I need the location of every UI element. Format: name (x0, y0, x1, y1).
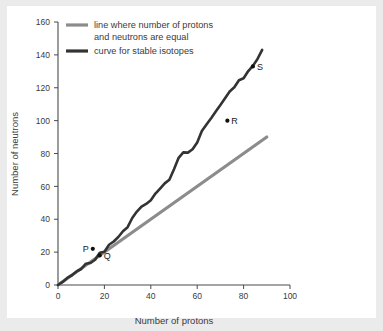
legend-label-0-line2: and neutrons are equal (94, 32, 189, 42)
y-tick-label: 140 (36, 50, 50, 60)
y-tick-label: 100 (36, 116, 50, 126)
x-tick-label: 40 (146, 291, 156, 301)
data-point-label-r: R (231, 116, 238, 126)
data-series-group (58, 50, 267, 285)
isotope-chart-plot: 020406080100120140160 020406080100 Numbe… (0, 0, 383, 331)
legend-label-1: curve for stable isotopes (94, 46, 194, 56)
x-tick-label: 20 (100, 291, 110, 301)
data-point-r (225, 119, 229, 123)
x-axis-tick-labels: 020406080100 (56, 291, 298, 301)
y-tick-label: 160 (36, 17, 50, 27)
labelled-points-group: PQRS (83, 62, 263, 261)
x-tick-label: 0 (56, 291, 61, 301)
x-axis-ticks (58, 285, 290, 289)
data-point-s (251, 64, 255, 68)
data-point-label-s: S (257, 62, 263, 72)
y-tick-label: 80 (41, 149, 51, 159)
data-point-label-p: P (83, 244, 89, 254)
y-tick-label: 20 (41, 247, 51, 257)
y-tick-label: 0 (45, 280, 50, 290)
legend-label-0: line where number of protons (94, 20, 213, 30)
y-axis-ticks (54, 22, 58, 285)
y-tick-label: 40 (41, 214, 51, 224)
y-tick-label: 120 (36, 83, 50, 93)
x-axis-title: Number of protons (135, 315, 214, 326)
y-axis-title: Number of neutrons (9, 112, 20, 196)
chart-legend: line where number of protonsand neutrons… (66, 20, 213, 56)
x-tick-label: 60 (192, 291, 202, 301)
data-point-q (98, 253, 102, 257)
y-tick-label: 60 (41, 182, 51, 192)
y-axis-tick-labels: 020406080100120140160 (36, 17, 50, 290)
data-point-label-q: Q (104, 251, 111, 261)
data-point-p (91, 247, 95, 251)
x-tick-label: 100 (283, 291, 297, 301)
x-tick-label: 80 (239, 291, 249, 301)
chart-figure: 020406080100120140160 020406080100 Numbe… (0, 0, 383, 331)
